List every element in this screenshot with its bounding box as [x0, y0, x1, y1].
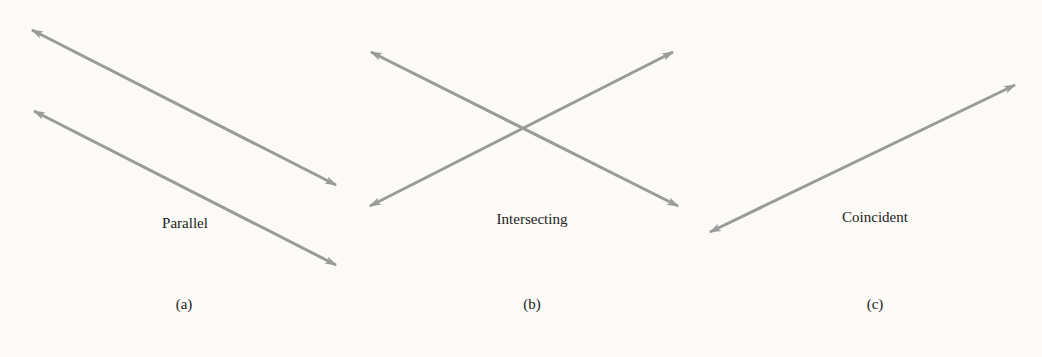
panel-a-line-2 — [34, 111, 336, 265]
panel-a-caption: (a) — [176, 297, 193, 312]
panel-b-title: Intersecting — [497, 212, 568, 227]
panel-c-caption: (c) — [867, 297, 884, 312]
panel-a-line-1 — [32, 30, 336, 185]
panel-a-title: Parallel — [162, 216, 208, 231]
lines-diagram — [0, 0, 1042, 357]
panel-b-caption: (b) — [523, 297, 541, 312]
panel-c-title: Coincident — [842, 210, 908, 225]
